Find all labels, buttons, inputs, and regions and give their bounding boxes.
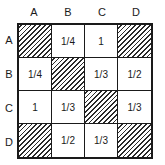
cell-b-c: 1/3 [85,58,118,91]
cell-d-b: 1/2 [52,124,85,157]
cell-d-a-hatched [19,124,52,157]
cell-a-d-hatched [118,25,151,58]
row-header-a: A [3,23,15,57]
column-header-c: C [85,6,119,18]
matrix-grid: 1/4 1 1/4 1/3 1/2 1 1/3 1/3 1/2 1/3 [17,23,153,159]
column-header-b: B [51,6,85,18]
cell-d-c: 1/3 [85,124,118,157]
cell-c-b: 1/3 [52,91,85,124]
cell-a-b: 1/4 [52,25,85,58]
cell-c-d: 1/3 [118,91,151,124]
column-header-a: A [17,6,51,18]
row-header-c: C [3,91,15,125]
column-header-d: D [119,6,153,18]
cell-b-d: 1/2 [118,58,151,91]
cell-c-c-hatched [85,91,118,124]
row-header-b: B [3,57,15,91]
cell-a-c: 1 [85,25,118,58]
row-header-d: D [3,125,15,159]
cell-c-a: 1 [19,91,52,124]
cell-a-a-hatched [19,25,52,58]
cell-d-d-hatched [118,124,151,157]
cell-b-b-hatched [52,58,85,91]
cell-b-a: 1/4 [19,58,52,91]
